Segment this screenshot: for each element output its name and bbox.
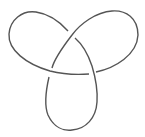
- strand-left-lobe: [9, 12, 89, 75]
- strand-bottom-lobe: [46, 38, 97, 130]
- strand-right-lobe: [52, 11, 138, 72]
- trefoil-knot-diagram: [0, 0, 145, 137]
